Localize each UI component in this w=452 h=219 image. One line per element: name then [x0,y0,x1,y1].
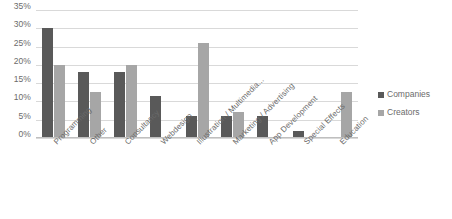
y-tick-label: 20% [14,57,31,66]
legend-swatch-icon [378,110,384,116]
legend-label: Creators [387,108,420,117]
y-tick-label: 5% [19,112,32,121]
chart-legend: CompaniesCreators [378,90,452,126]
y-tick-label: 0% [19,130,32,139]
bar-creators[interactable] [198,43,209,138]
legend-item[interactable]: Companies [378,90,452,99]
legend-item[interactable]: Creators [378,108,452,117]
bar-group [108,10,144,138]
bar-companies[interactable] [114,72,125,138]
x-axis-labels: ProgrammingOtherConsultancyWebdesignIllu… [36,140,358,219]
bar-chart: 35%30%25%20%15%10%5%0% ProgrammingOtherC… [0,0,452,219]
y-tick-label: 25% [14,39,31,48]
y-tick-label: 30% [14,20,31,29]
y-tick-label: 10% [14,93,31,102]
legend-label: Companies [387,90,430,99]
y-tick-label: 35% [14,2,31,11]
y-axis: 35%30%25%20%15%10%5%0% [0,6,34,138]
bar-group [36,10,72,138]
bar-companies[interactable] [42,28,53,138]
y-tick-label: 15% [14,75,31,84]
legend-swatch-icon [378,92,384,98]
